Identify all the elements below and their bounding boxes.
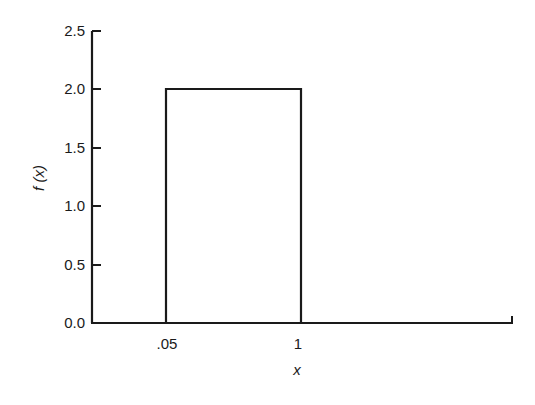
y-tick-label: 0.0 [64, 314, 85, 331]
y-axis-title: f (x) [30, 165, 47, 191]
y-tick-label: 1.0 [64, 197, 85, 214]
y-tick-label: 1.5 [64, 139, 85, 156]
y-tick-label: 2.5 [64, 22, 85, 39]
x-tick-label: 1 [294, 335, 302, 352]
y-ticks [92, 31, 101, 265]
y-tick-label: 2.0 [64, 80, 85, 97]
x-axis-title: x [292, 361, 301, 378]
chart-canvas: 2.5 2.0 1.5 1.0 0.5 0.0 f (x) .05 1 x [0, 0, 535, 405]
x-tick-label: .05 [157, 335, 178, 352]
y-tick-label: 0.5 [64, 256, 85, 273]
density-rectangle [166, 89, 301, 323]
